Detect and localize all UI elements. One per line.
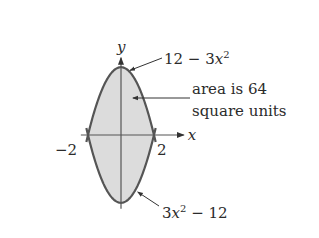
annotation-superscript: 2 (223, 49, 229, 60)
annotation-text: − 12 (186, 204, 227, 222)
annotation-area-line1: area is 64 (192, 80, 267, 98)
annotation-lower-curve: 3x2 − 12 (162, 203, 228, 222)
annotation-upper-curve: 12 − 3x2 (164, 49, 230, 68)
annotation-text: 12 − 3 (164, 50, 215, 68)
x-axis-label: x (188, 126, 197, 144)
x-tick-label: −2 (55, 141, 77, 159)
annotation-arrow-lower (138, 192, 159, 206)
annotation-area-line2: square units (192, 102, 287, 120)
plot-area: x y −2 2 12 − 3x2 area is 64 square unit… (0, 0, 319, 238)
annotation-text: 3 (162, 204, 172, 222)
y-axis-label: y (116, 38, 126, 56)
annotation-arrow-upper (130, 58, 162, 70)
x-tick-label: 2 (157, 141, 167, 159)
